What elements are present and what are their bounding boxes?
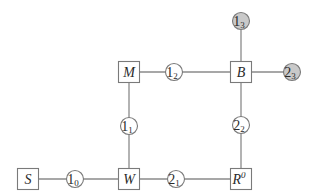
square-node-R: R0 [231, 169, 252, 190]
square-node-W: W [119, 169, 140, 190]
node-graph-diagram: SWR0MB10211122121323 [0, 0, 316, 196]
square-node-label: W [123, 172, 136, 187]
square-node-B: B [231, 62, 252, 83]
nodes: SWR0MB10211122121323 [18, 13, 301, 190]
circle-node-subscript: 1 [128, 125, 133, 135]
circle-node-1_1: 11 [121, 118, 138, 136]
circle-node-2_2: 22 [233, 117, 250, 135]
square-node-label: B [237, 65, 246, 80]
circle-node-subscript: 2 [240, 124, 245, 134]
circle-node-1_2: 12 [166, 64, 183, 82]
circle-node-subscript: 3 [291, 71, 296, 81]
circle-node-subscript: 1 [175, 178, 180, 188]
circle-node-subscript: 2 [173, 71, 178, 81]
circle-node-1_3: 13 [233, 13, 250, 31]
circle-node-1_0: 10 [67, 171, 84, 189]
circle-node-subscript: 3 [240, 20, 245, 30]
circle-node-2_3: 23 [284, 64, 301, 82]
square-node-S: S [18, 169, 39, 190]
square-node-label: S [25, 172, 32, 187]
edges [28, 21, 292, 179]
circle-node-2_1: 21 [168, 171, 185, 189]
square-node-label: M [122, 65, 136, 80]
square-node-M: M [119, 62, 140, 83]
square-node-superscript: 0 [241, 170, 246, 180]
circle-node-subscript: 0 [74, 178, 79, 188]
